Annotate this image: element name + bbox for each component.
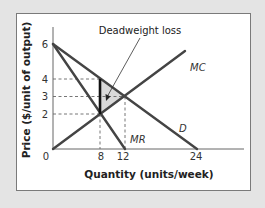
x-tick-24: 24	[190, 151, 203, 162]
marginal-cost-curve	[53, 51, 185, 149]
y-tick-6: 6	[42, 39, 48, 50]
x-axis-title: Quantity (units/week)	[84, 168, 213, 180]
x-tick-8: 8	[98, 151, 104, 162]
chart-svg: Deadweight loss MC D MR 6 4 3 2 0 8 12 2…	[0, 0, 265, 208]
y-axis-title: Price ($/unit of output)	[20, 22, 32, 159]
deadweight-loss-label: Deadweight loss	[99, 25, 182, 36]
x-tick-0: 0	[43, 151, 49, 162]
d-label: D	[179, 123, 187, 134]
y-tick-4: 4	[42, 74, 48, 85]
y-tick-3: 3	[42, 91, 48, 102]
y-tick-2: 2	[42, 109, 48, 120]
mr-label: MR	[130, 134, 146, 145]
mc-label: MC	[190, 62, 206, 73]
x-tick-12: 12	[117, 151, 130, 162]
